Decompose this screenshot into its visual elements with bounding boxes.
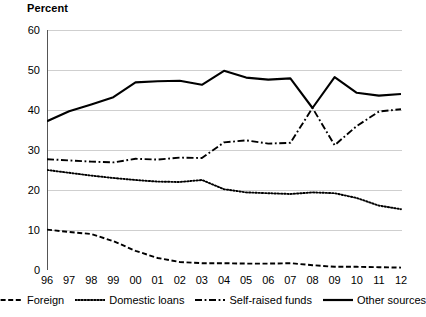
plot-area xyxy=(47,30,402,270)
legend-label: Foreign xyxy=(27,294,64,306)
solid-line-marker xyxy=(323,295,353,305)
legend-item-other-sources[interactable]: Other sources xyxy=(323,294,426,306)
y-axis-tick-label: 0 xyxy=(14,265,40,276)
legend-label: Domestic loans xyxy=(109,294,184,306)
plot-svg xyxy=(47,30,402,270)
legend-item-self-raised-funds[interactable]: Self-raised funds xyxy=(195,294,312,306)
x-axis-tick-label: 06 xyxy=(256,275,280,286)
dotted-line-marker xyxy=(75,295,105,305)
x-axis-tick-label: 02 xyxy=(168,275,192,286)
legend-item-domestic-loans[interactable]: Domestic loans xyxy=(75,294,184,306)
dashdot-line-marker xyxy=(195,295,225,305)
legend-item-foreign[interactable]: Foreign xyxy=(0,294,64,306)
x-axis-tick-label: 12 xyxy=(389,275,413,286)
x-axis-tick-label: 99 xyxy=(101,275,125,286)
x-axis-tick-label: 01 xyxy=(146,275,170,286)
series-line-self-raised-funds xyxy=(47,108,401,162)
x-axis-tick-label: 00 xyxy=(124,275,148,286)
legend-label: Self-raised funds xyxy=(229,294,312,306)
x-axis-tick-label: 05 xyxy=(234,275,258,286)
x-axis-tick-label: 97 xyxy=(57,275,81,286)
y-axis-tick-label: 40 xyxy=(14,105,40,116)
dashed-line-marker xyxy=(0,295,23,305)
x-axis-tick-label: 09 xyxy=(323,275,347,286)
chart-legend: ForeignDomestic loansSelf-raised fundsOt… xyxy=(0,294,419,306)
x-axis-tick-label: 98 xyxy=(79,275,103,286)
y-axis-tick-label: 50 xyxy=(14,65,40,76)
series-line-foreign xyxy=(47,230,401,268)
x-axis-tick-label: 07 xyxy=(278,275,302,286)
x-axis-tick-label: 11 xyxy=(367,275,391,286)
x-axis-tick-label: 96 xyxy=(35,275,59,286)
y-axis-tick-label: 20 xyxy=(14,185,40,196)
y-axis-tick-label: 30 xyxy=(14,145,40,156)
y-axis-title: Percent xyxy=(27,2,68,14)
x-axis-tick-label: 03 xyxy=(190,275,214,286)
series-line-other-sources xyxy=(47,71,401,121)
x-axis-tick-label: 10 xyxy=(345,275,369,286)
y-axis-tick-label: 10 xyxy=(14,225,40,236)
x-axis-tick-label: 04 xyxy=(212,275,236,286)
legend-label: Other sources xyxy=(357,294,426,306)
x-axis-tick-label: 08 xyxy=(301,275,325,286)
y-axis-tick-label: 60 xyxy=(14,25,40,36)
